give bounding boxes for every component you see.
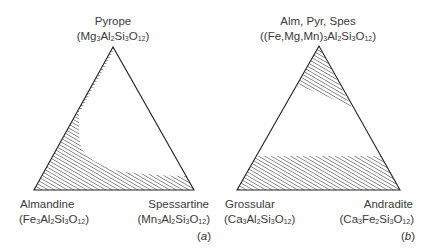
ternary-triangle-b	[237, 46, 400, 190]
ternary-triangle-a	[34, 47, 194, 190]
vertex-label-almandine: Almandine	[20, 197, 74, 211]
vertex-label-spessartine: Spessartine	[148, 197, 209, 211]
vertex-formula-grossular: (Ca3Al2Si3O12)	[224, 212, 295, 226]
hatched-bottom-band-b	[237, 156, 400, 190]
apex-formula-alm-pyr-spes: ((Fe,Mg,Mn)3Al2Si3O12)	[260, 29, 376, 43]
vertex-label-grossular: Grossular	[225, 197, 275, 211]
apex-label-alm-pyr-spes: Alm, Pyr, Spes	[280, 14, 355, 28]
panel-tag-a: (a)	[197, 230, 211, 242]
hatched-tick-band-a	[79, 47, 114, 110]
panel-tag-b: (b)	[401, 230, 415, 242]
vertex-formula-andradite: (Ca3Fe2Si3O12)	[340, 212, 415, 226]
apex-label-pyrope: Pyrope	[95, 14, 131, 28]
hatched-region-a	[34, 47, 194, 190]
vertex-formula-spessartine: (Mn3Al2Si3O12)	[137, 212, 210, 226]
vertex-label-andradite: Andradite	[364, 197, 413, 211]
vertex-formula-almandine: (Fe3Al2Si3O12)	[19, 212, 89, 226]
apex-formula-pyrope: (Mg3Al2Si3O12)	[77, 29, 150, 43]
